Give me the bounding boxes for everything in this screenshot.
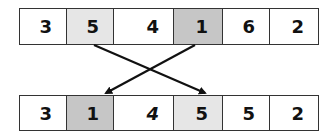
cell-after-0: 3 — [20, 96, 67, 130]
arrow-left-to-right — [94, 45, 205, 93]
cell-after-2: 4 — [114, 96, 174, 130]
cell-after-5: 2 — [270, 96, 318, 130]
cell-after-4: 5 — [223, 96, 270, 130]
cell-after-1: 1 — [67, 96, 114, 130]
array-after: 3 1 4 5 5 2 — [19, 95, 319, 131]
cell-after-3: 5 — [174, 96, 223, 130]
